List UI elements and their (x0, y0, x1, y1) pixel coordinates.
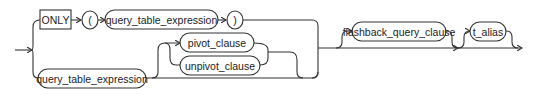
flashback-query-clause-label: flashback_query_clause (343, 26, 456, 38)
query-table-expression-top-node: query_table_expression (105, 10, 218, 29)
flashback-query-clause-node: flashback_query_clause (343, 22, 456, 41)
unpivot-clause-label: unpivot_clause (185, 60, 255, 72)
only-keyword-label: ONLY (42, 14, 70, 26)
t-alias-branch-entry (458, 31, 470, 48)
unpivot-branch-entry (165, 43, 180, 65)
close-paren-node: ) (227, 11, 243, 29)
syntax-diagram: ONLY ( query_table_expression ) query_ta… (0, 0, 543, 95)
query-table-expression-top-label: query_table_expression (106, 14, 218, 26)
t-alias-node: t_alias (470, 22, 506, 41)
left-branch-lines (32, 20, 40, 78)
t-alias-label: t_alias (473, 26, 503, 38)
pivot-branch-entry (152, 43, 180, 78)
close-paren-label: ) (233, 14, 237, 26)
open-paren-node: ( (82, 11, 98, 29)
merge-corner (312, 72, 318, 78)
open-paren-label: ( (88, 14, 92, 26)
pivot-clause-node: pivot_clause (180, 33, 254, 52)
only-keyword-box: ONLY (40, 10, 71, 29)
query-table-expression-bottom-node: query_table_expression (36, 69, 148, 88)
query-table-expression-bottom-label: query_table_expression (36, 73, 148, 85)
pivot-return (268, 52, 303, 78)
pivot-clause-label: pivot_clause (188, 37, 247, 49)
unpivot-clause-node: unpivot_clause (180, 56, 260, 75)
t-alias-branch-exit (506, 31, 518, 48)
